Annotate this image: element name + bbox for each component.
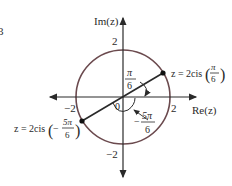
svg-text:): ) [75, 122, 80, 140]
svg-text:−: − [53, 123, 59, 134]
tick-top: 2 [112, 35, 118, 47]
edge-fragment: 3 [0, 25, 4, 37]
svg-text:6: 6 [127, 80, 132, 91]
point-z2-label: z = 2cis ( − 5π 6 ) [14, 117, 80, 140]
angle-label-pi-6: π 6 [125, 67, 136, 91]
svg-text:5π: 5π [142, 110, 153, 121]
point-z1-label: z = 2cis ( π 6 ) [171, 62, 225, 84]
tick-right: 2 [171, 102, 177, 114]
svg-text:): ) [220, 66, 225, 84]
svg-text:π: π [211, 62, 216, 72]
svg-text:π: π [127, 67, 133, 78]
angle-label-neg-5pi-6: − 5π 6 [134, 110, 155, 135]
point-z1 [160, 70, 165, 75]
svg-text:5π: 5π [63, 117, 73, 127]
origin-label: 0 [115, 101, 120, 112]
svg-text:6: 6 [211, 74, 216, 84]
tick-bottom: −2 [106, 148, 118, 160]
imaginary-axis-label: Im(z) [94, 15, 119, 28]
svg-text:−: − [134, 116, 140, 127]
svg-text:z = 2cis: z = 2cis [14, 123, 45, 134]
complex-plane-diagram: 3 Im(z) Re(z) 2 −2 −2 2 0 π 6 − 5π 6 z = [0, 0, 232, 186]
real-axis-label: Re(z) [192, 104, 217, 117]
svg-text:z = 2cis: z = 2cis [171, 68, 202, 79]
tick-left: −2 [64, 102, 76, 114]
svg-text:(: ( [205, 66, 210, 84]
svg-text:6: 6 [145, 124, 150, 135]
svg-text:6: 6 [65, 130, 70, 140]
